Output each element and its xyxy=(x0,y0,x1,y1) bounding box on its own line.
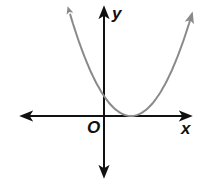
graph-canvas xyxy=(0,0,211,181)
origin-label: O xyxy=(87,119,100,136)
parabola-curve xyxy=(70,14,192,116)
x-axis-label: x xyxy=(181,120,190,137)
y-axis-label: y xyxy=(112,5,121,22)
curve-arrowhead-icon xyxy=(64,5,73,15)
